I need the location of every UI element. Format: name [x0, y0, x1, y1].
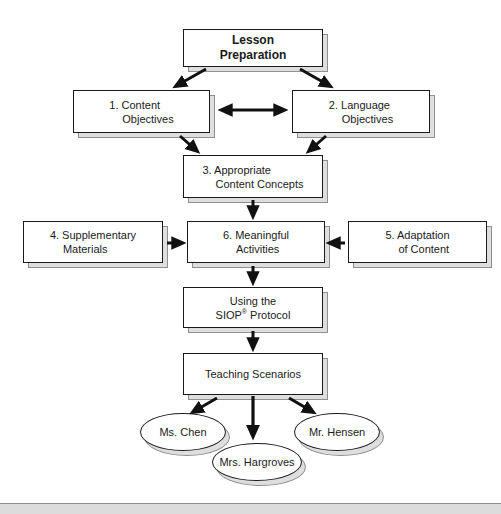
lesson-preparation-line2: Preparation — [220, 48, 287, 63]
supplementary-materials-box: 4. Supplementary Materials — [23, 221, 163, 263]
teaching-scenarios-label: Teaching Scenarios — [205, 367, 301, 381]
mrs-hargroves-oval: Mrs. Hargroves — [212, 443, 302, 481]
arrow-lessonprep-to-language-objectives — [300, 69, 330, 86]
lesson-preparation-box: Lesson Preparation — [183, 29, 323, 67]
ms-chen-label: Ms. Chen — [159, 426, 206, 438]
footer-divider-bar — [0, 503, 501, 514]
arrow-language-objectives-to-concepts — [309, 136, 326, 151]
arrow-scenarios-to-mr-hensen — [289, 398, 313, 412]
lesson-preparation-line1: Lesson — [220, 33, 287, 48]
siop-protocol-line2: SIOP® Protocol — [216, 308, 291, 322]
content-concepts-line1: 3. Appropriate — [202, 163, 303, 177]
siop-protocol-line1: Using the — [216, 294, 291, 308]
meaningful-activities-line1: 6. Meaningful — [223, 228, 289, 242]
supplementary-materials-line1: 4. Supplementary — [50, 228, 136, 242]
arrow-lessonprep-to-content-objectives — [176, 69, 206, 86]
language-objectives-line1: 2. Language — [329, 98, 393, 112]
siop-text: SIOP — [216, 309, 242, 321]
mr-hensen-oval: Mr. Hensen — [294, 413, 380, 451]
protocol-text: Protocol — [247, 309, 290, 321]
adaptation-of-content-box: 5. Adaptation of Content — [348, 221, 487, 263]
siop-protocol-box: Using the SIOP® Protocol — [183, 287, 323, 328]
mr-hensen-label: Mr. Hensen — [309, 426, 365, 438]
ms-chen-oval: Ms. Chen — [140, 413, 226, 451]
content-objectives-line2: Objectives — [109, 112, 173, 126]
meaningful-activities-box: 6. Meaningful Activities — [187, 221, 325, 263]
language-objectives-line2: Objectives — [329, 112, 393, 126]
arrow-scenarios-to-ms-chen — [193, 398, 217, 412]
content-concepts-line2: Content Concepts — [202, 177, 303, 191]
content-concepts-box: 3. Appropriate Content Concepts — [183, 155, 323, 198]
mrs-hargroves-label: Mrs. Hargroves — [219, 456, 294, 468]
adaptation-of-content-line1: 5. Adaptation — [385, 228, 449, 242]
supplementary-materials-line2: Materials — [50, 242, 136, 256]
adaptation-of-content-line2: of Content — [385, 242, 449, 256]
language-objectives-box: 2. Language Objectives — [292, 90, 430, 133]
content-objectives-line1: 1. Content — [109, 98, 173, 112]
arrow-content-objectives-to-concepts — [180, 136, 197, 151]
meaningful-activities-line2: Activities — [223, 242, 289, 256]
content-objectives-box: 1. Content Objectives — [73, 90, 210, 133]
siop-lesson-preparation-diagram: Lesson Preparation 1. Content Objectives… — [0, 0, 501, 514]
teaching-scenarios-box: Teaching Scenarios — [183, 353, 323, 395]
